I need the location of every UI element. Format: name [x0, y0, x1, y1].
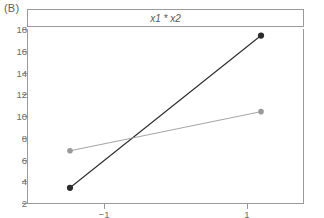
ytick-label: 10	[16, 111, 27, 122]
ytick-label: 18	[16, 24, 27, 35]
panel-label: (B)	[4, 2, 19, 14]
xtick-label: −1	[99, 209, 110, 218]
strip-title: x1 * x2	[28, 13, 303, 24]
ytick-label: 12	[16, 89, 27, 100]
ytick-label: 2	[22, 198, 27, 209]
strip-header: x1 * x2	[27, 9, 304, 27]
interaction-plot-figure: (B) x1 * x2 18 16 14 12 10 8 6 4 2 −1 1	[0, 0, 324, 218]
ytick-label: 4	[22, 176, 27, 187]
ytick-label: 16	[16, 45, 27, 56]
plot-frame	[27, 29, 304, 204]
ytick-label: 14	[16, 67, 27, 78]
xtick-label: 1	[244, 209, 249, 218]
ytick-label: 6	[22, 154, 27, 165]
ytick-label: 8	[22, 132, 27, 143]
